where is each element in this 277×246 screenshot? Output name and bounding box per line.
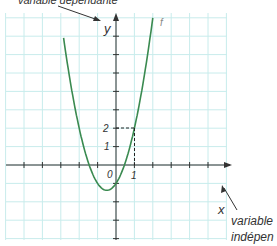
x-tick-label-1: 1: [131, 170, 137, 181]
x-axis-label: x: [217, 202, 225, 217]
x-axis: [6, 162, 232, 168]
function-label: f: [160, 17, 164, 28]
annotation-independent-line2: indépen: [231, 230, 274, 244]
y-tick-label-1: 1: [104, 141, 110, 152]
origin-label: 0: [107, 169, 113, 180]
y-axis: [113, 13, 119, 240]
function-curve: [64, 18, 153, 191]
annotation-dependent-variable: variable dépendante: [18, 0, 118, 6]
function-graph: y x f 0 1 1 2 variable dépendante variab…: [0, 0, 277, 246]
y-axis-label: y: [103, 21, 112, 36]
y-tick-label-2: 2: [102, 123, 109, 134]
annotation-independent-line1: variable: [231, 214, 273, 228]
